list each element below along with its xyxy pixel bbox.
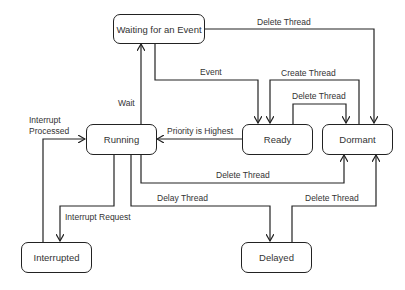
arrow-interrupt-request bbox=[60, 154, 114, 241]
label-interrupt-request: Interrupt Request bbox=[65, 212, 131, 222]
label-interrupt-processed-2: Processed bbox=[29, 126, 69, 136]
state-dormant: Dormant bbox=[322, 124, 393, 155]
label-interrupt-processed-1: Interrupt bbox=[29, 115, 61, 125]
label-ready-delete: Delete Thread bbox=[292, 91, 346, 101]
label-running-delete: Delete Thread bbox=[216, 170, 270, 180]
state-running: Running bbox=[86, 124, 157, 155]
state-waiting-for-event: Waiting for an Event bbox=[113, 14, 205, 44]
label-create-thread: Create Thread bbox=[281, 68, 336, 78]
arrow-event bbox=[155, 43, 258, 123]
label-wait: Wait bbox=[118, 98, 135, 108]
label-waiting-delete: Delete Thread bbox=[257, 17, 311, 27]
arrow-ready-delete bbox=[293, 104, 346, 124]
label-priority: Priority is Highest bbox=[167, 126, 233, 136]
label-delayed-delete: Delete Thread bbox=[305, 193, 359, 203]
state-delayed: Delayed bbox=[241, 242, 312, 273]
label-event: Event bbox=[200, 67, 222, 77]
label-delay-thread: Delay Thread bbox=[157, 193, 208, 203]
state-interrupted: Interrupted bbox=[21, 242, 92, 273]
state-ready: Ready bbox=[242, 124, 313, 155]
arrow-interrupt-processed bbox=[43, 139, 85, 242]
